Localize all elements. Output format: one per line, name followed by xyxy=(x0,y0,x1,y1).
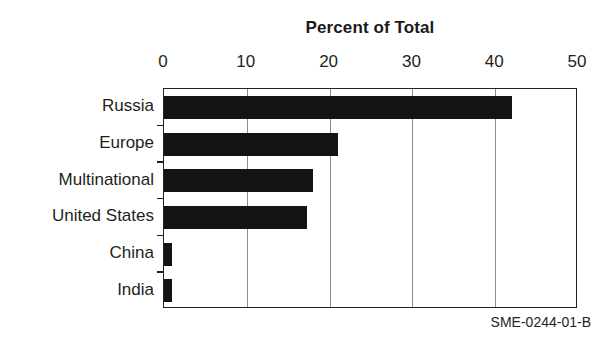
y-tick-label-united-states: United States xyxy=(52,207,154,224)
y-tick-label-europe: Europe xyxy=(99,134,154,151)
x-tick-label-30: 30 xyxy=(381,52,441,72)
bar-united-states xyxy=(164,206,307,229)
y-tick-label-russia: Russia xyxy=(102,97,154,114)
plot-area xyxy=(163,88,577,308)
y-tick-label-india: India xyxy=(117,281,154,298)
x-tick-label-40: 40 xyxy=(464,52,524,72)
bar-europe xyxy=(164,133,338,156)
x-axis-tick-labels: 01020304050 xyxy=(0,52,605,78)
x-tick-label-0: 0 xyxy=(133,52,193,72)
y-axis-category-labels: RussiaEuropeMultinationalUnited StatesCh… xyxy=(0,88,163,308)
bar-india xyxy=(164,279,172,302)
y-tick-label-china: China xyxy=(110,244,154,261)
y-tick-label-multinational: Multinational xyxy=(59,171,154,188)
x-tick-label-20: 20 xyxy=(299,52,359,72)
chart-title: Percent of Total xyxy=(163,18,577,38)
bar-multinational xyxy=(164,169,313,192)
x-tick-label-50: 50 xyxy=(547,52,605,72)
bar-chart-figure: Percent of Total 01020304050 RussiaEurop… xyxy=(0,0,605,343)
x-tick-label-10: 10 xyxy=(216,52,276,72)
source-code-label: SME-0244-01-B xyxy=(491,314,591,330)
bars-layer xyxy=(164,89,576,307)
bar-china xyxy=(164,243,172,266)
bar-russia xyxy=(164,96,512,119)
